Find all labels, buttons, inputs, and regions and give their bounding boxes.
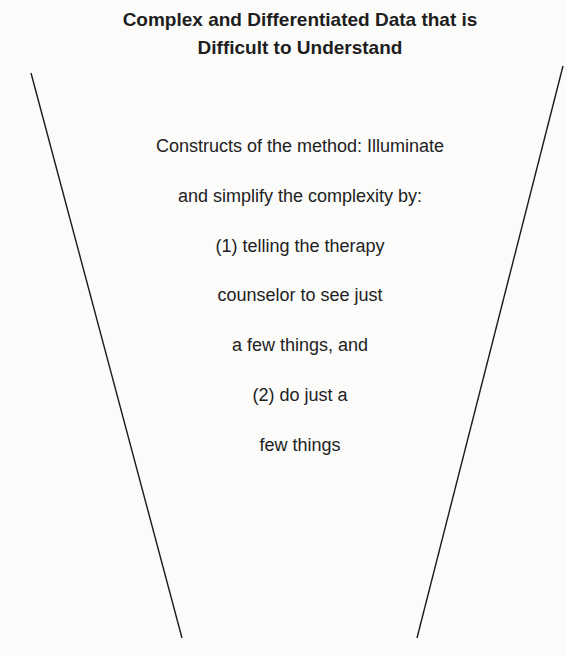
body-line: a few things, and (0, 321, 567, 371)
funnel-body-text: Constructs of the method: Illuminate and… (0, 122, 567, 471)
body-line: few things (0, 421, 567, 471)
body-line: Constructs of the method: Illuminate (0, 122, 567, 172)
body-line: and simplify the complexity by: (0, 172, 567, 222)
body-line: (2) do just a (0, 371, 567, 421)
body-line: counselor to see just (0, 271, 567, 321)
body-line: (1) telling the therapy (0, 222, 567, 272)
